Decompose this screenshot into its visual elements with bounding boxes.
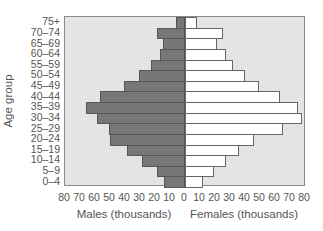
y-tick-label: 15–19 xyxy=(31,144,60,154)
y-tick-label: 20–24 xyxy=(31,133,60,143)
x-tick-label: 70 xyxy=(283,191,295,203)
y-tick-label: 50–54 xyxy=(31,69,60,79)
y-tick-label: 55–59 xyxy=(31,59,60,69)
bar-female xyxy=(185,176,203,188)
y-tick-label: 25–29 xyxy=(31,123,60,133)
y-tick-label: 60–64 xyxy=(31,48,60,58)
x-tick-label: 80 xyxy=(298,191,310,203)
x-tick-label: 60 xyxy=(88,191,100,203)
x-tick-label: 30 xyxy=(133,191,145,203)
y-tick-label: 40–44 xyxy=(31,91,60,101)
x-tick-label: 80 xyxy=(58,191,70,203)
x-axis-title-males: Males (thousands) xyxy=(77,208,172,220)
y-tick-label: 75+ xyxy=(42,16,60,26)
bar-male xyxy=(164,176,185,188)
x-tick-label: 50 xyxy=(253,191,265,203)
x-axis-title-females: Females (thousands) xyxy=(190,208,298,220)
x-tick-label: 20 xyxy=(148,191,160,203)
x-tick-label: 10 xyxy=(193,191,205,203)
y-tick-label: 0–4 xyxy=(42,176,60,186)
y-tick-label: 10–14 xyxy=(31,154,60,164)
x-tick-label: 10 xyxy=(163,191,175,203)
x-tick-label: 70 xyxy=(73,191,85,203)
y-axis-labels: 75+70–7465–6960–6455–5950–5445–4940–4435… xyxy=(0,16,60,186)
y-tick-label: 35–39 xyxy=(31,101,60,111)
x-tick-label: 60 xyxy=(268,191,280,203)
x-tick-label: 20 xyxy=(208,191,220,203)
x-tick-label: 40 xyxy=(118,191,130,203)
plot-area xyxy=(64,16,305,186)
y-tick-label: 65–69 xyxy=(31,38,60,48)
y-tick-label: 5–9 xyxy=(42,165,60,175)
x-tick-label: 0 xyxy=(181,191,187,203)
y-tick-label: 45–49 xyxy=(31,80,60,90)
x-tick-label: 30 xyxy=(223,191,235,203)
y-tick-label: 30–34 xyxy=(31,112,60,122)
x-tick-label: 50 xyxy=(103,191,115,203)
y-tick-label: 70–74 xyxy=(31,27,60,37)
x-tick-label: 40 xyxy=(238,191,250,203)
